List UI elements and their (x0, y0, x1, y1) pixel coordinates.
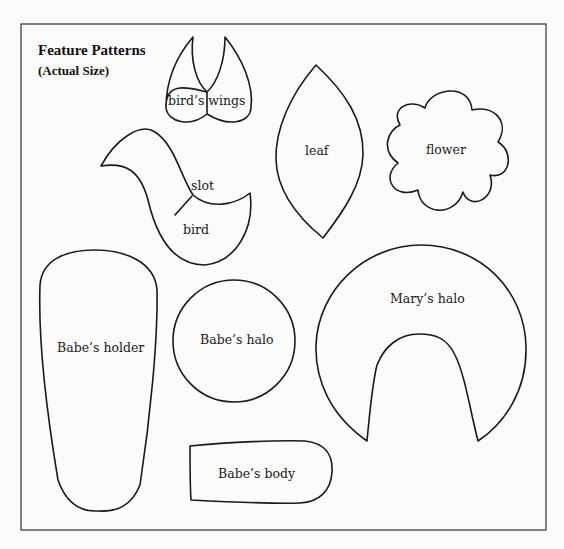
bird-label: bird (183, 222, 209, 237)
babes-holder-label: Babe’s holder (57, 340, 144, 355)
bird-shape (101, 129, 251, 265)
birds-wings-label: bird’s wings (168, 93, 246, 108)
babes-holder-shape (40, 250, 157, 511)
marys-halo-shape (316, 245, 526, 441)
page-title: Feature Patterns (38, 42, 146, 59)
slot-label: slot (191, 178, 214, 193)
page-subtitle: (Actual Size) (38, 63, 109, 79)
slot-line (175, 196, 192, 215)
page-frame (21, 24, 546, 530)
babes-body-label: Babe’s body (218, 466, 295, 481)
flower-label: flower (426, 142, 466, 157)
marys-halo-label: Mary’s halo (390, 291, 465, 306)
leaf-label: leaf (305, 143, 328, 158)
birds-wings-shape (166, 37, 251, 122)
babes-halo-label: Babe’s halo (200, 332, 273, 347)
